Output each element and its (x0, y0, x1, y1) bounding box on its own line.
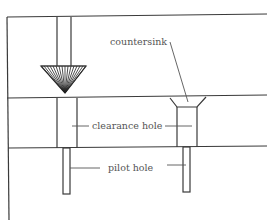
right-clearance-hole (177, 107, 197, 147)
pilot-hole-label: pilot hole (108, 162, 154, 173)
countersink-diagram: countersink clearance hole pilot hole (0, 0, 267, 220)
countersink-leader (170, 42, 188, 102)
top-edge (7, 14, 267, 17)
upper-board-top-line (7, 95, 267, 98)
clearance-hole-label: clearance hole (92, 120, 163, 131)
left-pilot-hole (63, 148, 70, 194)
countersink-bit-icon (41, 17, 86, 93)
left-edge (7, 17, 9, 220)
right-pilot-hole (183, 147, 190, 192)
left-clearance-hole (57, 98, 77, 148)
countersink-label: countersink (110, 36, 167, 47)
board-joint-line (8, 146, 267, 148)
